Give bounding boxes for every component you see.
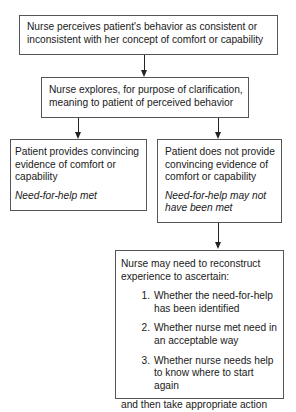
item-number: 2. — [121, 322, 154, 347]
node-intro: Nurse may need to reconstruct experience… — [121, 258, 281, 283]
connector-line — [78, 118, 79, 133]
ascertain-list: 1. Whether the need-for-help has been id… — [121, 290, 281, 392]
item-number: 1. — [121, 290, 154, 315]
connector-line — [144, 55, 145, 71]
node-text: Nurse perceives patient's behavior as co… — [27, 21, 277, 46]
node-nurse-explores: Nurse explores, for purpose of clarifica… — [41, 77, 249, 118]
node-patient-not-convincing: Patient does not provide convincing evid… — [157, 139, 282, 223]
arrowhead-icon — [215, 242, 221, 249]
node-text: Patient does not provide convincing evid… — [165, 146, 277, 184]
node-outcome: Need-for-help met — [15, 190, 142, 203]
arrowhead-icon — [141, 70, 147, 77]
node-text: Nurse explores, for purpose of clarifica… — [49, 84, 248, 109]
node-text: Patient provides convincing evidence of … — [15, 146, 142, 184]
node-closing: and then take appropriate action — [121, 399, 281, 412]
arrowhead-icon — [75, 132, 81, 139]
list-item: 2. Whether nurse met need in an acceptab… — [121, 322, 281, 347]
list-item: 3. Whether nurse needs help to know wher… — [121, 355, 281, 393]
node-patient-convincing: Patient provides convincing evidence of … — [10, 139, 147, 211]
item-text: Whether the need-for-help has been ident… — [154, 290, 281, 315]
node-nurse-perceives: Nurse perceives patient's behavior as co… — [19, 15, 278, 55]
arrowhead-icon — [215, 132, 221, 139]
item-number: 3. — [121, 355, 154, 393]
connector-line — [218, 223, 219, 243]
item-text: Whether nurse needs help to know where t… — [154, 355, 281, 393]
item-text: Whether nurse met need in an acceptable … — [154, 322, 281, 347]
node-outcome: Need-for-help may not have been met — [165, 190, 277, 215]
node-nurse-reconstruct: Nurse may need to reconstruct experience… — [115, 250, 284, 399]
list-item: 1. Whether the need-for-help has been id… — [121, 290, 281, 315]
connector-line — [218, 118, 219, 133]
